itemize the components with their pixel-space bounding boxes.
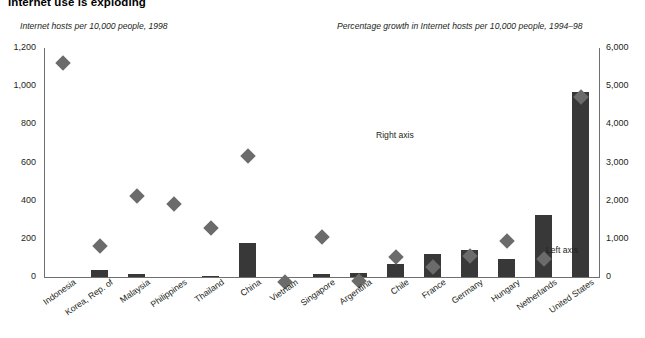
data-point-marker <box>425 259 441 275</box>
x-axis-category-label: Argentina <box>337 277 373 307</box>
y-axis-right-tick-label: 3,000 <box>606 158 645 167</box>
x-axis-category-label: Germany <box>449 277 484 306</box>
annotation-right-axis: Right axis <box>376 130 414 140</box>
x-axis-category-label: China <box>238 277 262 298</box>
data-point-marker <box>314 229 330 245</box>
data-point-marker <box>92 238 108 254</box>
y-axis-left-tick-label: 1,200 <box>0 43 36 52</box>
chart-container: Internet use is exploding Internet hosts… <box>0 0 645 338</box>
right-axis-caption: Percentage growth in Internet hosts per … <box>337 21 583 31</box>
data-point-marker <box>388 249 404 265</box>
x-axis-category-label: Chile <box>388 277 410 297</box>
data-point-marker <box>573 90 589 106</box>
y-axis-left-tick-label: 200 <box>0 234 36 243</box>
y-axis-left-tick-label: 800 <box>0 119 36 128</box>
y-axis-right-tick-label: 4,000 <box>606 119 645 128</box>
x-axis-category-label: Malaysia <box>117 277 151 305</box>
plot-area: Right axis Left axis <box>44 48 599 277</box>
y-axis-left-tick-label: 1,000 <box>0 81 36 90</box>
x-axis-category-label: Philippines <box>148 277 188 309</box>
x-axis-category-label: Vietnam <box>268 277 300 303</box>
scatter-series-hosts <box>44 48 599 277</box>
y-axis-right-tick-label: 1,000 <box>606 234 645 243</box>
x-axis-category-label: Thailand <box>192 277 225 304</box>
data-point-marker <box>129 188 145 204</box>
left-axis-caption: Internet hosts per 10,000 people, 1998 <box>20 21 168 31</box>
y-axis-left-tick-label: 600 <box>0 158 36 167</box>
x-axis-category-label: Hungary <box>489 277 522 304</box>
x-axis-category-label: Singapore <box>298 277 336 308</box>
y-axis-right-line <box>599 48 600 277</box>
x-axis-category-label: France <box>419 277 447 301</box>
data-point-marker <box>240 148 256 164</box>
data-point-marker <box>55 55 71 71</box>
annotation-left-axis: Left axis <box>546 245 578 255</box>
data-point-marker <box>499 233 515 249</box>
data-point-marker <box>203 220 219 236</box>
data-point-marker <box>462 248 478 264</box>
chart-title: Internet use is exploding <box>8 0 146 8</box>
y-axis-right-tick-label: 2,000 <box>606 196 645 205</box>
x-axis-category-labels: IndonesiaKorea, Rep. ofMalaysiaPhilippin… <box>0 277 645 338</box>
y-axis-left-tick-label: 400 <box>0 196 36 205</box>
y-axis-right-tick-label: 6,000 <box>606 43 645 52</box>
data-point-marker <box>166 196 182 212</box>
y-axis-right-tick-label: 5,000 <box>606 81 645 90</box>
